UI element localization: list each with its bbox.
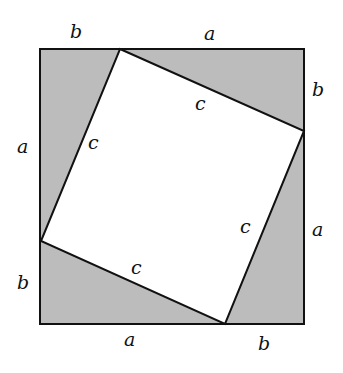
label-top-b: b [70,20,82,42]
label-c-left: c [88,131,99,153]
label-c-bottom: c [131,256,142,278]
label-c-right: c [240,215,251,237]
label-bottom-a: a [124,328,135,350]
label-top-a: a [204,22,215,44]
label-right-b: b [312,78,324,100]
label-left-a: a [17,135,28,157]
pythagorean-diagram: b a b a a b a b c c c c [0,0,343,373]
label-right-a: a [312,218,323,240]
label-bottom-b: b [258,332,270,354]
label-c-top: c [195,92,206,114]
label-left-b: b [17,271,29,293]
